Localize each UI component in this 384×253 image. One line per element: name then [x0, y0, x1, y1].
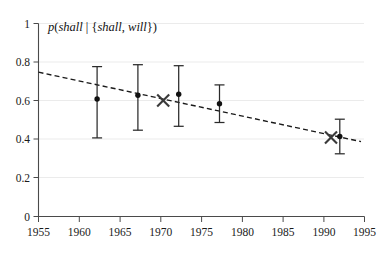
data-point-marker — [176, 92, 181, 97]
chart-canvas: 1 0.8 0.6 0.4 0.2 0 1955 1960 1965 1970 … — [0, 0, 384, 253]
title-part-given-brace: | { — [83, 20, 98, 34]
title-part-p: p — [47, 20, 54, 34]
x-tick-label-1980: 1980 — [231, 226, 254, 238]
x-tick-label-1995: 1995 — [353, 226, 376, 238]
y-axis: 1 0.8 0.6 0.4 0.2 0 — [16, 18, 39, 223]
chart-figure: 1 0.8 0.6 0.4 0.2 0 1955 1960 1965 1970 … — [0, 0, 384, 253]
data-point-group-1972 — [174, 66, 184, 127]
title-part-shall-2: shall — [98, 20, 123, 34]
x-tick-label-1970: 1970 — [149, 226, 172, 238]
x-tick-label-1955: 1955 — [27, 226, 50, 238]
chart-title: p(shall | {shall, will}) — [47, 20, 157, 34]
y-tick-label-1: 1 — [24, 18, 30, 30]
y-tick-label-0.8: 0.8 — [16, 56, 31, 68]
y-tick-label-0.6: 0.6 — [16, 95, 31, 107]
x-marker-1991 — [325, 132, 337, 144]
title-part-shall-1: shall — [58, 20, 83, 34]
data-point-group-1977 — [215, 85, 225, 123]
x-tick-label-1965: 1965 — [109, 226, 132, 238]
x-axis: 1955 1960 1965 1970 1975 1980 1985 1990 … — [27, 217, 376, 239]
y-tick-label-0.2: 0.2 — [16, 172, 31, 184]
title-part-will: will — [128, 20, 147, 34]
x-tick-label-1985: 1985 — [272, 226, 295, 238]
title-part-close: }) — [147, 20, 157, 34]
x-tick-label-1975: 1975 — [190, 226, 213, 238]
y-tick-label-0: 0 — [24, 211, 30, 223]
x-tick-label-1960: 1960 — [68, 226, 91, 238]
data-point-marker — [94, 96, 99, 101]
data-point-marker — [337, 134, 342, 139]
gridlines — [38, 24, 364, 178]
data-series-observed — [92, 65, 345, 154]
data-point-group-1962 — [92, 67, 102, 138]
data-series-model-estimate — [157, 95, 337, 144]
trend-line-group — [39, 72, 362, 141]
data-point-marker — [135, 93, 140, 98]
data-point-group-1967 — [133, 65, 143, 131]
data-point-marker — [217, 101, 222, 106]
x-tick-label-1990: 1990 — [312, 226, 335, 238]
y-tick-label-0.4: 0.4 — [16, 133, 31, 145]
fitted-trend-line — [39, 72, 362, 141]
